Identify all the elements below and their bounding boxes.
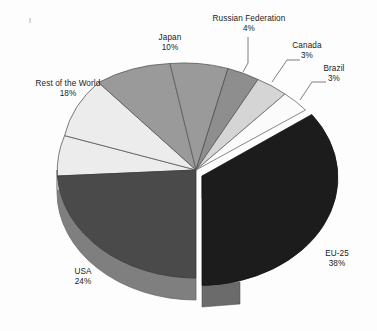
- label-canada-value: 3%: [278, 51, 336, 61]
- label-rest-of-the-world-name: Rest of the World: [36, 79, 101, 88]
- slice-usa: [58, 170, 197, 278]
- label-brazil: Brazil 3%: [305, 64, 363, 84]
- label-usa: USA 24%: [56, 267, 110, 287]
- label-usa-name: USA: [74, 267, 91, 276]
- label-japan-value: 10%: [140, 43, 200, 53]
- leader-line-brazil: [300, 82, 326, 100]
- side-wall-eu25-front: [202, 282, 240, 307]
- label-canada: Canada 3%: [278, 41, 336, 61]
- label-eu25-name: EU-25: [325, 249, 349, 258]
- label-japan: Japan 10%: [140, 33, 200, 53]
- label-usa-value: 24%: [56, 277, 110, 287]
- label-rest-of-the-world-value: 18%: [14, 89, 122, 99]
- label-japan-name: Japan: [159, 33, 182, 42]
- label-russian-federation-name: Russian Federation: [213, 14, 286, 23]
- label-russian-federation: Russian Federation 4%: [190, 14, 308, 34]
- leader-line-russian-federation: [243, 37, 248, 72]
- leader-line-canada: [272, 60, 300, 82]
- label-brazil-name: Brazil: [323, 64, 344, 73]
- label-rest-of-the-world: Rest of the World 18%: [14, 79, 122, 99]
- pie-chart: Russian Federation 4% Japan 10% Canada 3…: [0, 0, 377, 331]
- label-russian-federation-value: 4%: [190, 24, 308, 34]
- label-eu25: EU-25 38%: [310, 249, 364, 269]
- label-brazil-value: 3%: [305, 74, 363, 84]
- label-canada-name: Canada: [292, 41, 321, 50]
- label-eu25-value: 38%: [310, 259, 364, 269]
